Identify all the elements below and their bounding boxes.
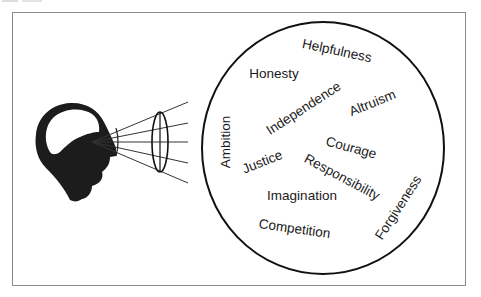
- value-forgiveness: Forgiveness: [372, 172, 425, 242]
- value-honesty: Honesty: [249, 66, 299, 81]
- values-diagram: Helpfulness Honesty Independence Altruis…: [0, 0, 481, 297]
- value-justice: Justice: [240, 147, 285, 177]
- head-icon: [35, 103, 116, 201]
- value-ambition: Ambition: [218, 116, 233, 169]
- value-competition: Competition: [258, 216, 331, 241]
- value-independence: Independence: [264, 79, 344, 138]
- value-courage: Courage: [324, 134, 378, 162]
- value-altruism: Altruism: [347, 87, 398, 119]
- value-imagination: Imagination: [267, 188, 337, 203]
- vision-rays: [92, 102, 188, 183]
- value-helpfulness: Helpfulness: [301, 36, 373, 65]
- value-words: Helpfulness Honesty Independence Altruis…: [218, 36, 425, 243]
